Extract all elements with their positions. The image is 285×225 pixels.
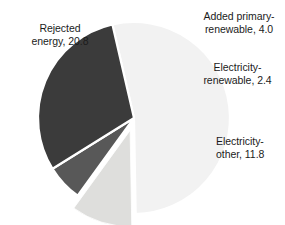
slice-label-rejected-energy: Rejected energy, 20.8 [8, 22, 112, 47]
pie-chart: Rejected energy, 20.8 Added primary- ren… [0, 0, 285, 225]
slice-label-added-primary-renewable: Added primary- renewable, 4.0 [193, 10, 285, 35]
slice-label-electricity-renewable: Electricity- renewable, 2.4 [190, 61, 285, 86]
slice-label-electricity-other: Electricity- other, 11.8 [216, 135, 285, 160]
